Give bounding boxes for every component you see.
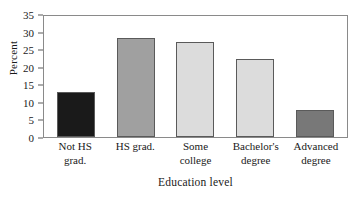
y-axis-tick-label: 25: [2, 45, 34, 56]
x-axis-tick-label-line: Some: [165, 140, 225, 154]
x-axis-tick-label: Bachelor'sdegree: [226, 140, 286, 168]
bar-series: [44, 16, 347, 137]
y-axis-tick-label: 0: [2, 133, 34, 144]
x-axis-tick-label-line: degree: [286, 154, 346, 168]
x-axis-tick-label-line: degree: [226, 154, 286, 168]
x-axis-tick-label-line: grad.: [45, 154, 105, 168]
bar-slot: [46, 16, 106, 137]
y-axis-tick-label: 20: [2, 62, 34, 73]
bar: [176, 42, 214, 137]
x-axis-tick-label-line: college: [165, 154, 225, 168]
x-axis-tick-label-line: HS grad.: [105, 140, 165, 154]
bar-slot: [106, 16, 166, 137]
x-axis-tick-label-line: Not HS: [45, 140, 105, 154]
x-axis-tick-label: Not HSgrad.: [45, 140, 105, 168]
y-axis-tick-label: 30: [2, 27, 34, 38]
bar-slot: [285, 16, 345, 137]
bar: [117, 38, 155, 137]
x-axis-tick-label-line: Bachelor's: [226, 140, 286, 154]
x-axis-title: Education level: [43, 176, 348, 188]
bar: [296, 110, 334, 137]
y-axis-ticks: 05101520253035: [0, 0, 43, 201]
x-axis-tick-label: Somecollege: [165, 140, 225, 168]
bar-slot: [166, 16, 226, 137]
plot-area: [43, 15, 348, 138]
y-axis-tick-label: 35: [2, 10, 34, 21]
x-axis-tick-labels: Not HSgrad.HS grad.SomecollegeBachelor's…: [43, 140, 348, 168]
x-axis-tick-label-line: Advanced: [286, 140, 346, 154]
bar-chart-figure: Percent 05101520253035 Not HSgrad.HS gra…: [0, 0, 363, 201]
y-axis-tick-label: 10: [2, 97, 34, 108]
y-axis-tick-label: 15: [2, 80, 34, 91]
bar: [236, 59, 274, 137]
bar: [57, 92, 95, 137]
x-axis-tick-label: HS grad.: [105, 140, 165, 168]
x-axis-tick-label: Advanceddegree: [286, 140, 346, 168]
bar-slot: [225, 16, 285, 137]
y-axis-tick-label: 5: [2, 115, 34, 126]
